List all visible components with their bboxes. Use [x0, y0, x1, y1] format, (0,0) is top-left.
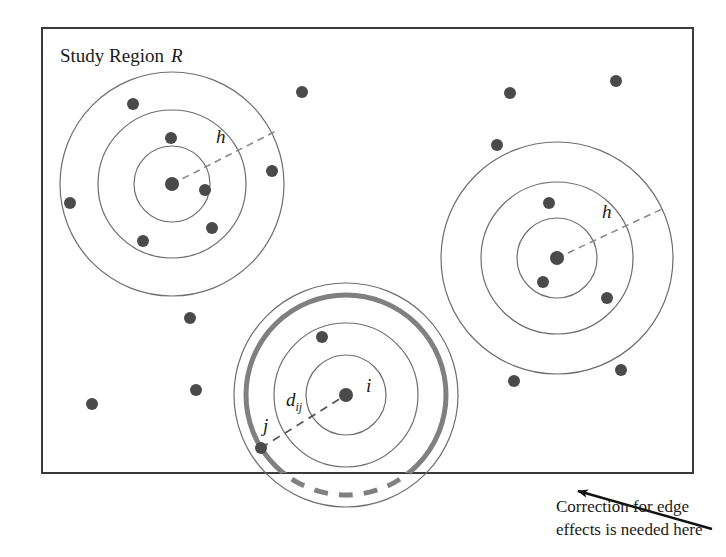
page-title-variable: R: [170, 45, 183, 66]
diagram-canvas: Study Region R h h: [0, 0, 726, 557]
point: [190, 384, 202, 396]
point: [86, 398, 98, 410]
point-label-i: i: [366, 375, 371, 396]
point: [543, 197, 555, 209]
distance-label-dij: dij: [286, 389, 303, 414]
point: [601, 292, 613, 304]
point: [199, 184, 211, 196]
point: [504, 87, 516, 99]
point: [615, 364, 627, 376]
point: [508, 375, 520, 387]
radius-label-h: h: [216, 126, 226, 147]
spatial-k-function-diagram: Study Region R h h: [0, 0, 726, 557]
edge-effect-annotation: Correction for edge effects is needed he…: [556, 491, 712, 539]
point-label-j: j: [260, 415, 268, 436]
point-pattern-layer: [64, 75, 627, 454]
point: [64, 197, 76, 209]
point: [537, 276, 549, 288]
point: [206, 222, 218, 234]
point: [165, 132, 177, 144]
point: [137, 235, 149, 247]
point: [184, 312, 196, 324]
point: [610, 75, 622, 87]
point: [296, 86, 308, 98]
annotation-line-2: effects is needed here: [556, 520, 702, 539]
radius-label-h: h: [602, 201, 612, 222]
point-cluster2-center: [550, 251, 564, 265]
distance-dashed-line: [261, 395, 346, 448]
page-title: Study Region: [60, 45, 164, 66]
point-cluster1-center: [165, 177, 179, 191]
point: [316, 331, 328, 343]
point: [127, 98, 139, 110]
annotation-line-1: Correction for edge: [556, 497, 689, 516]
point-i: [339, 388, 353, 402]
point-j: [255, 442, 267, 454]
point: [266, 165, 278, 177]
point: [491, 139, 503, 151]
